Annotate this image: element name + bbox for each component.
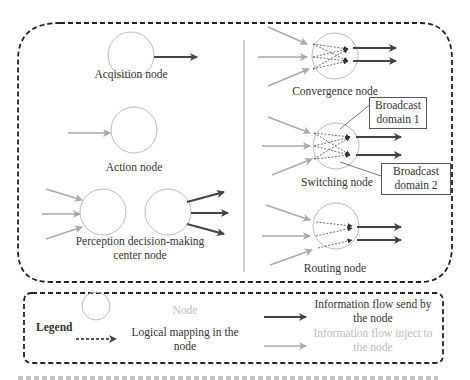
routing-node-circle bbox=[313, 203, 359, 249]
legend-title: Legend bbox=[36, 320, 72, 334]
legend-inject-label-line1: Information flow inject to bbox=[308, 326, 438, 340]
broadcast-domain-2-line1: Broadcast bbox=[382, 164, 450, 178]
broadcast-domain-1-box: Broadcast domain 1 bbox=[369, 97, 427, 129]
legend-logical-label-line1: Logical mapping in the bbox=[120, 325, 250, 339]
legend-node-label: Node bbox=[150, 303, 220, 317]
broadcast-domain-2-line2: domain 2 bbox=[382, 178, 450, 192]
perception-node-circle-2 bbox=[145, 189, 191, 235]
action-node-circle bbox=[111, 107, 157, 153]
broadcast-domain-1-line1: Broadcast bbox=[370, 98, 426, 112]
legend-logical-label-line2: node bbox=[120, 339, 250, 353]
broadcast-domain-2-box: Broadcast domain 2 bbox=[381, 163, 451, 195]
switching-node-label: Switching node bbox=[287, 175, 387, 189]
broadcast1-leader bbox=[340, 103, 372, 129]
legend-inject-label-line2: the node bbox=[308, 340, 438, 354]
convergence-node-label: Convergence node bbox=[280, 84, 390, 98]
convergence-node-circle bbox=[312, 33, 358, 79]
acquisition-node-label: Acqisition node bbox=[81, 67, 181, 81]
perception-node-circle-1 bbox=[80, 189, 126, 235]
legend-node-circle bbox=[82, 292, 110, 320]
truncated-caption bbox=[18, 376, 438, 380]
action-node-label: Action node bbox=[84, 160, 184, 174]
broadcast-domain-1-line2: domain 1 bbox=[370, 112, 426, 126]
perception-node-label-line2: center node bbox=[60, 248, 220, 262]
legend-send-label-line2: the node bbox=[308, 311, 438, 325]
perception-node-label-line1: Perception decision-making bbox=[60, 234, 220, 248]
legend-send-label-line1: Information flow send by bbox=[308, 297, 438, 311]
switching-node-circle bbox=[313, 123, 359, 169]
broadcast2-leader bbox=[340, 162, 381, 176]
routing-node-label: Routing node bbox=[290, 261, 380, 275]
